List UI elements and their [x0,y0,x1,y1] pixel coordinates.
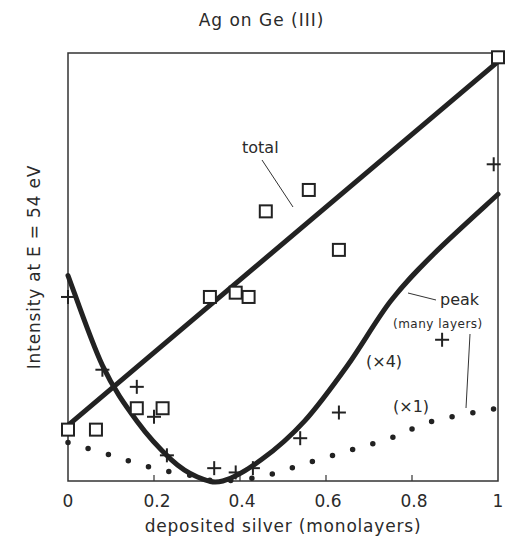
solid-curve [68,62,498,426]
fit-curves [68,62,498,482]
square-marker [243,291,255,303]
plot-area [0,0,523,559]
square-marker [204,291,216,303]
peak-annotation: peak [440,290,479,309]
square-marker [260,205,272,217]
square-marker [492,51,504,63]
many-layers-annotation: (many layers) [393,317,483,331]
solid-curve [68,194,498,482]
square-marker [333,244,345,256]
many-layers-leader-line [466,334,470,408]
square-marker [131,402,143,414]
x1-annotation: (×1) [393,397,429,416]
total-leader-line [262,160,293,207]
square-marker [90,424,102,436]
square-marker [62,424,74,436]
square-marker [157,402,169,414]
x4-annotation: (×4) [366,352,402,371]
square-marker [230,287,242,299]
peak-leader-line [408,293,436,300]
square-marker [303,184,315,196]
total-annotation: total [242,138,279,157]
